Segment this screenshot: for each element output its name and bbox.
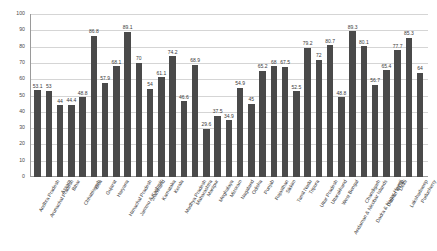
bar-slot: 89.1: [122, 14, 133, 177]
bar-slot: 65.4: [381, 14, 392, 177]
x-tick-slot: Uttar Pradesh: [313, 179, 324, 249]
x-tick-slot: Sikkim: [280, 179, 291, 249]
bar-slot: 72: [313, 14, 324, 177]
bar-value-label: 53: [46, 84, 52, 89]
bar-value-label: 29.6: [202, 122, 212, 127]
x-tick-slot: Andaman & Nicobar Islands: [347, 179, 358, 249]
x-tick-slot: Jammu & Kashmir: [133, 179, 144, 249]
bar[interactable]: [34, 90, 40, 177]
bar-slot: 52.5: [291, 14, 302, 177]
bar-value-label: 86.8: [89, 29, 99, 34]
bar-slot: 74.2: [167, 14, 178, 177]
bar-slot: 68.9: [190, 14, 201, 177]
bar[interactable]: [192, 65, 198, 177]
bar[interactable]: [316, 60, 322, 177]
bar-slot: 70: [133, 14, 144, 177]
bar[interactable]: [271, 66, 277, 177]
x-tick-slot: Meghalaya: [212, 179, 223, 249]
bar[interactable]: [259, 71, 265, 177]
bar[interactable]: [124, 32, 130, 177]
bar-slot: 29.6: [201, 14, 212, 177]
bar[interactable]: [372, 85, 378, 177]
bar[interactable]: [136, 63, 142, 177]
bar-slot: 80.7: [325, 14, 336, 177]
bar-value-label: 72: [316, 53, 322, 58]
bar[interactable]: [361, 46, 367, 177]
x-tick-slot: Arunachal Pradesh: [43, 179, 54, 249]
bar[interactable]: [417, 73, 423, 177]
bar-value-label: 70: [136, 56, 142, 61]
bar[interactable]: [46, 91, 52, 177]
bar-value-label: 54.9: [235, 81, 245, 86]
bar[interactable]: [158, 77, 164, 177]
bar[interactable]: [181, 101, 187, 177]
x-tick-slot: Uttarakhand: [325, 179, 336, 249]
bar[interactable]: [147, 89, 153, 177]
bar-slot: 53: [43, 14, 54, 177]
x-tick-slot: Dadra & Nagar Haveli: [370, 179, 381, 249]
bar-slot: 68.1: [111, 14, 122, 177]
x-tick-slot: Goa: [88, 179, 99, 249]
x-tick-slot: Tripura: [302, 179, 313, 249]
bar-slot: 54.9: [235, 14, 246, 177]
bar[interactable]: [383, 70, 389, 177]
x-tick-slot: Rajasthan: [268, 179, 279, 249]
bar[interactable]: [57, 105, 63, 177]
bar[interactable]: [169, 56, 175, 177]
x-tick-slot: Puducherry: [415, 179, 426, 249]
y-tick-label: 50: [19, 93, 25, 98]
bar[interactable]: [68, 105, 74, 177]
bar-slot: 37.5: [212, 14, 223, 177]
bar[interactable]: [304, 48, 310, 177]
x-tick-slot: Bihar: [66, 179, 77, 249]
bar[interactable]: [91, 36, 97, 177]
bar-value-label: 57.9: [100, 76, 110, 81]
bar[interactable]: [79, 97, 85, 177]
bar[interactable]: [394, 50, 400, 177]
bar-slot: 80.1: [358, 14, 369, 177]
bar-slot: 89.3: [347, 14, 358, 177]
bar-value-label: 56.7: [370, 78, 380, 83]
x-tick-slot: Andhra Pradesh: [32, 179, 43, 249]
x-tick-slot: Manipur: [201, 179, 212, 249]
bar-value-label: 68.9: [190, 58, 200, 63]
bar-value-label: 68: [271, 60, 277, 65]
bar-value-label: 48.8: [337, 91, 347, 96]
bar-value-label: 67.5: [280, 60, 290, 65]
bar[interactable]: [113, 66, 119, 177]
bar[interactable]: [203, 129, 209, 177]
bar-value-label: 80.1: [359, 40, 369, 45]
bar-slot: 44: [55, 14, 66, 177]
bar-value-label: 37.5: [213, 109, 223, 114]
bar[interactable]: [338, 97, 344, 177]
bar[interactable]: [406, 38, 412, 177]
bar-value-label: 34.9: [224, 114, 234, 119]
bar[interactable]: [293, 91, 299, 177]
bar[interactable]: [237, 88, 243, 177]
y-tick-label: 70: [19, 60, 25, 65]
x-tick-slot: Tamil Nadu: [291, 179, 302, 249]
bar-value-label: 79.2: [303, 41, 313, 46]
bar-value-label: 45: [249, 97, 255, 102]
bar-slot: 34.9: [223, 14, 234, 177]
bar[interactable]: [327, 45, 333, 177]
x-tick-slot: Punjab: [257, 179, 268, 249]
bar[interactable]: [282, 67, 288, 177]
bar-slot: 46.6: [178, 14, 189, 177]
x-tick-slot: West Bengal: [336, 179, 347, 249]
bar[interactable]: [102, 83, 108, 177]
bar[interactable]: [214, 116, 220, 177]
bar-slot: 48.8: [77, 14, 88, 177]
bar-slot: 54: [145, 14, 156, 177]
y-tick-label: 100: [16, 11, 25, 16]
bar[interactable]: [248, 104, 254, 177]
bar-slot: 61.1: [156, 14, 167, 177]
y-tick-label: 0: [22, 174, 25, 179]
bar[interactable]: [226, 120, 232, 177]
x-tick-slot: Karnataka: [156, 179, 167, 249]
x-tick-slot: Chandigarh: [358, 179, 369, 249]
x-tick-slot: Gujarat: [100, 179, 111, 249]
x-axis: Andhra PradeshArunachal PradeshAssamBiha…: [30, 179, 428, 249]
bar[interactable]: [349, 31, 355, 177]
